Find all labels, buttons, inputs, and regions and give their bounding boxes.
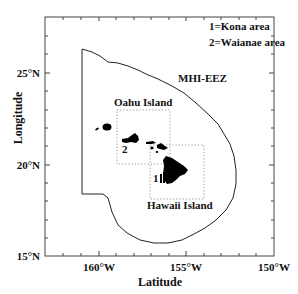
x-tick-155w: 155°W (170, 261, 202, 273)
molokai-island (146, 141, 156, 144)
kona-marker-label: 1 (153, 172, 159, 184)
kona-marker-bar (163, 172, 165, 183)
x-tick-160w: 160°W (83, 261, 115, 273)
y-axis-title: Longitude (11, 91, 25, 144)
y-tick-25n: 25°N (17, 67, 40, 79)
hawaiian-islands (95, 124, 188, 185)
x-tick-150w: 150°W (258, 261, 290, 273)
maui-island (157, 143, 168, 150)
y-tick-15n: 15°N (17, 250, 40, 262)
kahoolawe-island (156, 151, 159, 153)
hawaii-island (163, 156, 188, 184)
kauai-island (103, 124, 112, 131)
kona-marker-bar (160, 174, 162, 183)
map-figure: 1=Kona area 2=Waianae area MHI-EEZ Oahu … (0, 0, 298, 294)
y-tick-20n: 20°N (17, 159, 40, 171)
oahu-island-label: Oahu Island (114, 96, 172, 108)
plot-frame (45, 17, 274, 256)
x-axis-ticks (63, 17, 256, 256)
legend-kona: 1=Kona area (209, 20, 270, 32)
x-axis-title: Latitude (138, 275, 183, 289)
eez-label: MHI-EEZ (178, 72, 227, 84)
oahu-study-box (117, 110, 170, 164)
waianae-marker-label: 2 (122, 143, 128, 155)
oahu-island (122, 133, 139, 143)
niihau-island (95, 127, 99, 131)
lanai-island (150, 147, 153, 150)
hawaii-island-label: Hawaii Island (147, 199, 213, 211)
legend-waianae: 2=Waianae area (209, 36, 286, 48)
